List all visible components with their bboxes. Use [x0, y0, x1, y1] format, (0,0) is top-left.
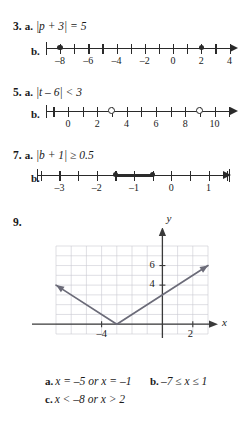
number-line-arrow-right: [230, 107, 238, 115]
number-line-tick-label: –6: [83, 55, 93, 66]
number-line-axis: [46, 111, 234, 112]
number-line-tick: [68, 107, 69, 117]
number-line-end-cap-left: [46, 105, 47, 118]
number-line-tick: [209, 171, 210, 181]
number-line-end-cap-left: [46, 42, 47, 55]
problem-3-number: 3.: [13, 20, 22, 32]
number-line-tick: [215, 44, 216, 54]
problem-9-graph: y x –4246: [28, 228, 218, 354]
number-line-tick: [141, 107, 142, 117]
number-line-tick-label: 0: [65, 118, 70, 129]
number-line-tick: [187, 44, 188, 54]
number-line-end-cap-left: [37, 169, 38, 182]
number-line-tick: [215, 107, 216, 117]
answer-a-text: x = –5 or x = –1: [55, 375, 131, 387]
number-line-tick-label: 2: [95, 118, 100, 129]
answer-b: b.–7 ≤ x ≤ 1: [150, 375, 207, 387]
number-line-tick-label: –2: [140, 55, 150, 66]
problem-3-part-a-expression: |p + 3| = 5: [36, 20, 87, 32]
number-line-tick: [190, 171, 191, 181]
problem-5-part-a: 5.a.|t – 6| < 3: [13, 82, 82, 100]
answer-b-text: –7 ≤ x ≤ 1: [161, 375, 207, 387]
number-line-tick-label: –2: [92, 182, 102, 193]
problem-5-number-line: 0246810: [46, 104, 238, 130]
problem-5-part-a-expression: |t – 6| < 3: [36, 86, 82, 98]
problem-7-part-a-label: a.: [25, 149, 33, 161]
number-line-segment: [115, 174, 152, 177]
graph-y-tick-label: 4: [149, 278, 154, 289]
number-line-closed-point: [57, 45, 62, 50]
graph-x-axis: [32, 321, 218, 328]
problem-3-part-a-label: a.: [25, 20, 33, 32]
number-line-tick: [74, 44, 75, 54]
number-line-tick: [117, 44, 118, 54]
graph-x-tick-label: –4: [97, 328, 108, 339]
answer-c-label: c.: [45, 393, 53, 405]
number-line-tick-label: –8: [55, 55, 65, 66]
answer-c: c.x < –8 or x > 2: [45, 393, 125, 405]
number-line-closed-point: [199, 45, 204, 50]
number-line-tick: [159, 44, 160, 54]
problem-3-part-a: 3.a.|p + 3| = 5: [13, 16, 86, 34]
number-line-open-point: [196, 107, 203, 114]
number-line-tick-label: –1: [129, 182, 139, 193]
worksheet-page: 3.a.|p + 3| = 5 b. –8–6–4–2024 5.a.|t – …: [0, 0, 246, 431]
number-line-tick: [127, 107, 128, 117]
number-line-tick: [53, 107, 54, 117]
answer-c-text: x < –8 or x > 2: [55, 393, 125, 405]
problem-7-part-a: 7.a.|b + 1| ≥ 0.5: [13, 145, 94, 163]
number-line-tick: [97, 107, 98, 117]
graph-y-tick-label: 6: [149, 259, 154, 270]
number-line-tick: [41, 171, 42, 181]
number-line-tick: [156, 107, 157, 117]
answer-b-label: b.: [150, 375, 159, 387]
answer-a: a.x = –5 or x = –1: [45, 375, 131, 387]
answer-a-label: a.: [45, 375, 53, 387]
y-axis-label: y: [166, 212, 171, 224]
number-line-tick: [171, 171, 172, 181]
problem-9-number: 9.: [13, 216, 22, 228]
number-line-tick: [78, 171, 79, 181]
number-line-tick: [185, 107, 186, 117]
number-line-tick: [102, 44, 103, 54]
x-axis-label: x: [222, 316, 227, 328]
number-line-tick-label: 2: [199, 55, 204, 66]
number-line-tick: [171, 107, 172, 117]
problem-7-part-a-expression: |b + 1| ≥ 0.5: [36, 149, 94, 161]
number-line-arrow-right: [223, 171, 231, 179]
graph-x-tick-label: 2: [188, 328, 193, 339]
number-line-tick-label: –3: [54, 182, 64, 193]
problem-9-label: 9.: [13, 212, 25, 230]
problem-5-part-a-label: a.: [25, 86, 33, 98]
number-line-tick-label: 10: [210, 118, 220, 129]
number-line-tick: [97, 171, 98, 181]
graph-y-axis: [159, 228, 166, 338]
number-line-tick: [83, 107, 84, 117]
number-line-arrow-right: [230, 44, 238, 52]
number-line-tick-label: 8: [183, 118, 188, 129]
number-line-tick-label: 4: [124, 118, 129, 129]
number-line-tick: [88, 44, 89, 54]
number-line-tick: [145, 44, 146, 54]
number-line-open-point: [108, 107, 115, 114]
number-line-tick: [131, 44, 132, 54]
problem-7-number: 7.: [13, 149, 22, 161]
number-line-tick-label: 1: [206, 182, 211, 193]
graph-grid: [56, 246, 208, 334]
problem-5-part-b-label: b.: [31, 108, 40, 120]
number-line-tick-label: 0: [171, 55, 176, 66]
problem-3-part-b-label: b.: [31, 45, 40, 57]
number-line-tick-label: –4: [112, 55, 122, 66]
number-line-tick-label: 0: [169, 182, 174, 193]
number-line-tick: [59, 171, 60, 181]
problem-3-number-line: –8–6–4–2024: [46, 41, 238, 67]
number-line-tick: [173, 44, 174, 54]
number-line-closed-point: [113, 172, 118, 177]
problem-5-number: 5.: [13, 86, 22, 98]
problem-7-number-line: –3–2–101: [37, 168, 231, 194]
number-line-tick-label: 6: [153, 118, 158, 129]
number-line-tick-label: 4: [227, 55, 232, 66]
